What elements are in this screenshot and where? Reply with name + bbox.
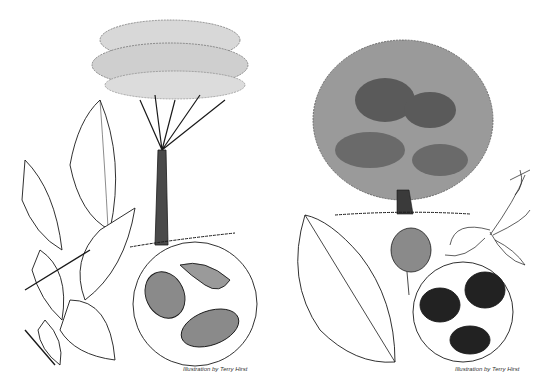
left-illustration <box>0 0 275 390</box>
umbrella-tree <box>92 20 248 247</box>
left-illustration-panel: Illustration by Terry Hirst <box>0 0 275 390</box>
illustration-credit: Illustration by Terry Hirst <box>455 366 519 372</box>
seeds-circle <box>413 262 513 362</box>
right-illustration <box>275 0 551 390</box>
right-illustration-panel: Illustration by Terry Hirst <box>275 0 551 390</box>
leafy-branch <box>22 100 135 365</box>
large-leaf <box>298 215 395 362</box>
round-canopy-tree <box>313 40 493 215</box>
illustration-credit: Illustration by Terry Hirst <box>183 366 247 372</box>
seeds-circle <box>133 242 257 366</box>
